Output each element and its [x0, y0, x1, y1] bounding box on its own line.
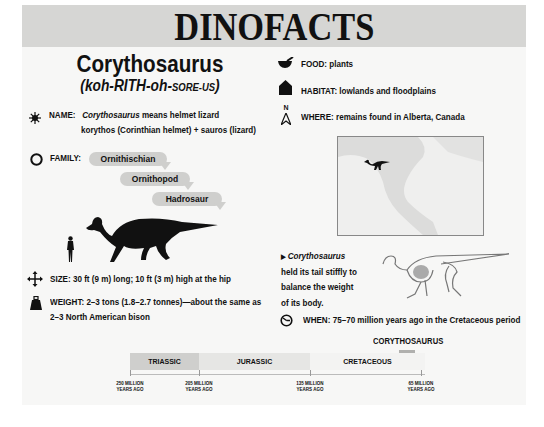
tick-205: [199, 370, 200, 376]
period-cretaceous: CRETACEOUS: [310, 353, 425, 370]
name-label: NAME:: [49, 110, 76, 120]
tick-label-65: 65 MILLIONYEARS AGO: [401, 381, 441, 392]
page-title: DINOFACTS: [174, 3, 374, 50]
timeline-axis: [130, 374, 425, 375]
corythosaurus-skeleton: [381, 248, 511, 304]
where-fact: WHERE: remains found in Alberta, Canada: [301, 110, 465, 125]
tick-65: [421, 370, 422, 376]
period-label: JURASSIC: [237, 358, 272, 365]
weight-fact-line2: 2–3 North American bison: [50, 310, 150, 325]
family-level-label: Ornithischian: [101, 154, 156, 164]
tick-label-250: 250 MILLIONYEARS AGO: [110, 381, 150, 392]
skeleton-caption: ▶ Corythosaurus held its tail stiffly to…: [281, 249, 357, 311]
north-label: N: [280, 104, 292, 111]
family-level-hadrosaur: Hadrosaur: [152, 192, 222, 206]
pronunciation-part: ): [215, 77, 220, 94]
name-text: means helmet lizard: [140, 110, 220, 120]
tick-135: [310, 370, 311, 376]
name-italic: Corythosaurus: [82, 110, 140, 120]
caption-line: of its body.: [281, 296, 357, 312]
play-arrow-icon: ▶: [281, 253, 285, 260]
when-fact: WHEN: 75–70 million years ago in the Cre…: [303, 313, 520, 328]
period-label: CRETACEOUS: [343, 358, 391, 365]
food-fact: FOOD: plants: [301, 57, 353, 72]
pronunciation: (koh-RITH-oh-SORE-US): [73, 77, 228, 95]
compass-north-icon: N: [280, 104, 292, 129]
period-label: TRIASSIC: [148, 358, 181, 365]
arrow-down-icon: [214, 202, 226, 210]
mortar-pestle-icon: [278, 55, 294, 73]
arrow-down-icon: [159, 162, 171, 170]
header-banner: DINOFACTS: [22, 5, 526, 47]
caption-line: balance the weight: [281, 280, 357, 296]
clock-icon: [280, 313, 293, 331]
pronunciation-smallcaps: SORE-US: [172, 81, 215, 93]
family-level-label: Ornithopod: [132, 174, 178, 184]
caption-italic: Corythosaurus: [288, 251, 346, 261]
family-level-label: Hadrosaur: [166, 194, 209, 204]
tick-label-135: 135 MILLIONYEARS AGO: [290, 381, 330, 392]
habitat-fact: HABITAT: lowlands and floodplains: [301, 84, 436, 99]
arrow-down-icon: [182, 182, 194, 190]
caption-line: held its tail stiffly to: [281, 265, 357, 281]
family-level-ornithischian: Ornithischian: [89, 152, 167, 166]
tick-250: [130, 370, 131, 376]
house-icon: [279, 80, 292, 99]
period-triassic: TRIASSIC: [130, 353, 199, 370]
sunburst-icon: [29, 110, 41, 128]
move-arrows-icon: [27, 271, 43, 291]
corythosaurus-silhouette: [84, 214, 220, 268]
weight-icon: [30, 296, 42, 314]
dinosaur-location-marker: [364, 157, 390, 175]
location-map: [337, 136, 484, 236]
dinosaur-name: Corythosaurus: [73, 50, 228, 78]
family-label: FAMILY:: [50, 151, 81, 166]
tick-label-205: 205 MILLIONYEARS AGO: [179, 381, 219, 392]
size-fact: SIZE: 30 ft (9 m) long; 10 ft (3 m) high…: [50, 272, 231, 287]
family-level-ornithopod: Ornithopod: [120, 172, 190, 186]
name-fact-line2: korythos (Corinthian helmet) + sauros (l…: [81, 123, 256, 138]
corythosaurus-marker-label: CORYTHOSAURUS: [373, 336, 443, 346]
weight-fact-line1: WEIGHT: 2–3 tons (1.8–2.7 tonnes)—about …: [50, 295, 261, 310]
circle-icon: [30, 152, 43, 170]
pronunciation-part: (koh-RITH-oh-: [80, 77, 172, 94]
human-silhouette-icon: [66, 236, 75, 267]
period-jurassic: JURASSIC: [199, 353, 310, 370]
name-fact: NAME: Corythosaurus means helmet lizard: [49, 108, 219, 123]
